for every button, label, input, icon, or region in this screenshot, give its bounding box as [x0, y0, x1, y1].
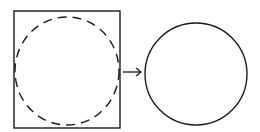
- right-figure: [145, 23, 247, 125]
- dashed-circle: [15, 17, 119, 125]
- square-frame: [14, 11, 120, 128]
- solid-circle: [145, 23, 247, 125]
- arrow-icon: [123, 68, 141, 76]
- left-figure: [14, 11, 120, 128]
- diagram-canvas: [0, 0, 260, 132]
